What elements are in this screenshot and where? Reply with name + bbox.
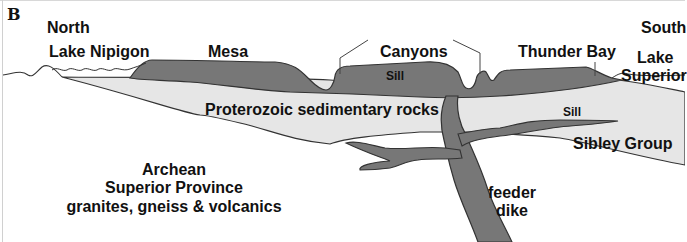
panel-label: B [7, 5, 21, 24]
lower-left-sill [346, 142, 462, 170]
archean-surface-west [3, 66, 62, 77]
sill-lower-label: Sill [563, 106, 581, 118]
feeder-dike-label-line2: dike [484, 202, 540, 220]
lake-superior-label-line2: Superior [621, 68, 687, 84]
lake-superior-label-line1: Lake [637, 50, 673, 66]
feeder-dike-label: feeder dike [484, 184, 540, 221]
archean-label-line2: Superior Province [56, 179, 292, 197]
south-label: South [641, 20, 686, 36]
archean-label-line1: Archean [56, 161, 292, 179]
mesa-label: Mesa [208, 44, 248, 60]
canyons-label: Canyons [380, 44, 448, 60]
lake-nipigon-label: Lake Nipigon [49, 44, 149, 60]
sibley-group-label: Sibley Group [573, 136, 673, 152]
thunder-bay-label: Thunder Bay [518, 44, 616, 60]
archean-label: Archean Superior Province granites, gnei… [56, 161, 292, 216]
north-label: North [47, 20, 90, 36]
lake-nipigon-water [52, 63, 146, 70]
sill-upper-label: Sill [386, 70, 404, 82]
proterozoic-label: Proterozoic sedimentary rocks [205, 102, 439, 118]
feeder-dike-label-line1: feeder [484, 184, 540, 202]
canyons-pointer-right [453, 40, 480, 74]
archean-label-line3: granites, gneiss & volcanics [56, 198, 292, 216]
